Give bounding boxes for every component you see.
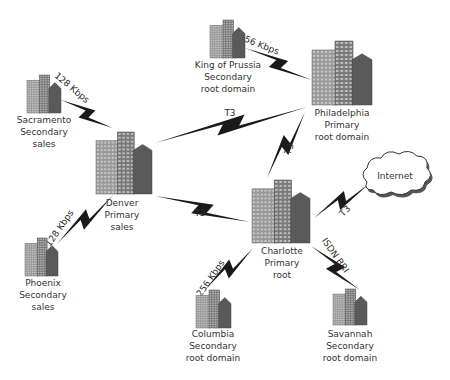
node-label-line: root xyxy=(273,270,292,280)
node-label-line: Secondary xyxy=(189,341,237,351)
node-label-line: Savannah xyxy=(328,329,373,339)
link-philadelphia-charlotte: T3 xyxy=(267,112,305,178)
node-label-line: Denver xyxy=(106,198,139,208)
node-king-of-prussia: King of PrussiaSecondaryroot domain xyxy=(195,20,261,94)
link-denver-phoenix: 128 Kbps xyxy=(43,195,113,248)
node-label-line: root domain xyxy=(186,353,241,363)
node-label-line: Primary xyxy=(105,210,140,220)
node-label-line: Phoenix xyxy=(25,278,61,288)
node-label-line: Secondary xyxy=(326,341,374,351)
node-label-line: Secondary xyxy=(20,127,68,137)
building-icon xyxy=(312,41,372,105)
network-diagram: 128 Kbps256 KbpsT3T3128 KbpsT3T3256 Kbps… xyxy=(0,0,450,380)
node-label-line: Sacramento xyxy=(17,115,72,125)
node-label-line: sales xyxy=(33,139,56,149)
node-charlotte: CharlottePrimaryroot xyxy=(252,180,310,280)
node-label-line: Columbia xyxy=(192,329,235,339)
node-label-line: Primary xyxy=(265,258,300,268)
node-label-line: Charlotte xyxy=(261,246,303,256)
node-label: Internet xyxy=(377,171,413,181)
link-speed-label: T3 xyxy=(223,108,235,118)
node-label-line: sales xyxy=(32,302,55,312)
link-charlotte-columbia: 256 Kbps xyxy=(194,248,253,298)
node-philadelphia: PhiladelphiaPrimaryroot domain xyxy=(312,41,372,142)
node-label-line: Secondary xyxy=(19,290,67,300)
link-speed-label: T3 xyxy=(337,203,353,219)
node-label-line: Secondary xyxy=(204,72,252,82)
link-charlotte-internet: T3 xyxy=(314,183,370,219)
node-phoenix: PhoenixSecondarysales xyxy=(19,238,67,312)
link-denver-charlotte: T3 xyxy=(155,196,250,222)
building-icon xyxy=(196,290,231,328)
building-icon xyxy=(252,180,310,243)
node-columbia: ColumbiaSecondaryroot domain xyxy=(186,290,241,363)
node-denver: DenverPrimarysales xyxy=(96,132,152,232)
node-label-line: root domain xyxy=(201,84,256,94)
node-label-line: sales xyxy=(111,222,134,232)
node-label-line: root domain xyxy=(315,132,370,142)
node-label-line: root domain xyxy=(323,353,378,363)
link-speed-label: T3 xyxy=(193,208,205,218)
building-icon xyxy=(96,132,152,194)
node-savannah: SavannahSecondaryroot domain xyxy=(323,289,378,363)
node-internet: Internet xyxy=(363,151,433,197)
node-label-line: King of Prussia xyxy=(195,60,261,70)
node-label-line: Philadelphia xyxy=(315,108,370,118)
nodes-layer: SacramentoSecondarysalesKing of PrussiaS… xyxy=(17,20,433,363)
node-label-line: Primary xyxy=(325,120,360,130)
building-icon xyxy=(210,20,245,58)
link-charlotte-savannah: ISDN BRI xyxy=(311,236,360,290)
building-icon xyxy=(333,289,367,325)
